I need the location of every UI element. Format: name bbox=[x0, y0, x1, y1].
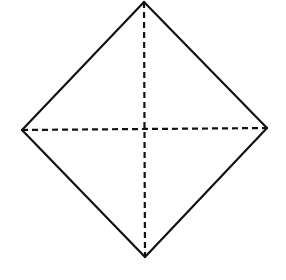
dashed-diagonals bbox=[22, 2, 267, 257]
edge-right-bottom bbox=[145, 128, 267, 257]
edge-left-top bbox=[22, 2, 144, 130]
edge-bottom-left bbox=[22, 130, 145, 257]
diamond-diagram bbox=[0, 0, 286, 280]
edge-top-right bbox=[144, 2, 267, 128]
diagonal-left-right bbox=[22, 128, 267, 130]
